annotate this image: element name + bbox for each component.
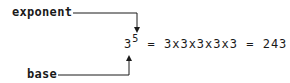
equals-sign-2: = bbox=[238, 37, 263, 51]
equation-exponent: 5 bbox=[132, 33, 139, 44]
equation: 35 = 3x3x3x3x3 = 243 bbox=[124, 37, 287, 51]
equals-sign-1: = bbox=[139, 37, 164, 51]
equation-expansion: 3x3x3x3x3 bbox=[164, 37, 238, 51]
equation-result: 243 bbox=[263, 37, 288, 51]
base-arrow bbox=[58, 55, 132, 75]
exponent-diagram: exponent base 35 = 3x3x3x3x3 = 243 bbox=[0, 0, 290, 83]
exponent-label: exponent bbox=[12, 5, 72, 19]
exponent-arrow bbox=[73, 13, 140, 33]
base-label: base bbox=[27, 67, 57, 81]
equation-base: 3 bbox=[124, 37, 132, 51]
